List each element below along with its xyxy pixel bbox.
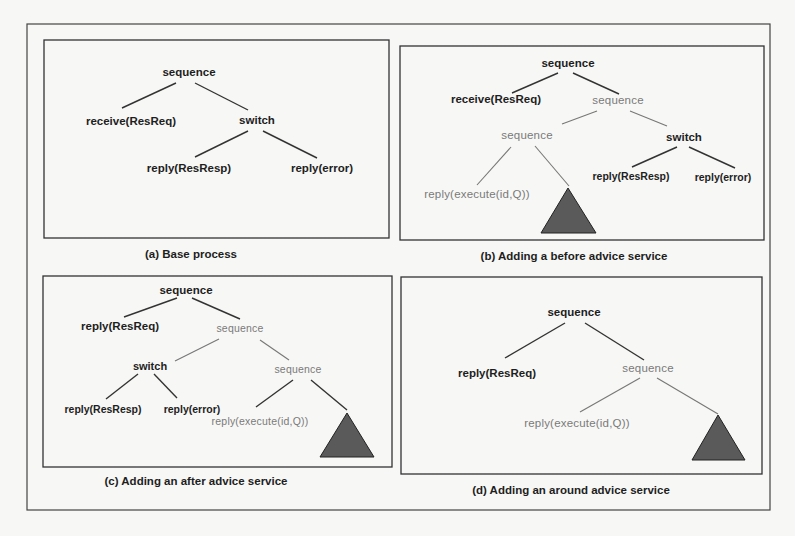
node-reply-execute: reply(execute(id,Q))	[524, 417, 630, 429]
node-switch: switch	[666, 131, 702, 143]
edge	[124, 298, 177, 317]
edge	[535, 146, 569, 186]
edge	[192, 298, 240, 319]
advice-weaving-diagram: sequence receive(ResReq) switch reply(Re…	[0, 0, 795, 536]
edge	[630, 111, 667, 126]
panel-c-caption: (c) Adding an after advice service	[104, 475, 287, 487]
edge	[562, 111, 597, 124]
node-reply-execute: reply(execute(id,Q))	[424, 188, 530, 200]
node-reply-resreq: reply(ResReq)	[81, 320, 159, 332]
node-reply-error: reply(error)	[291, 162, 353, 174]
panel-a-caption: (a) Base process	[145, 248, 237, 260]
panel-b-caption: (b) Adding a before advice service	[481, 250, 668, 262]
subtree-triangle-icon	[692, 415, 745, 460]
edge	[106, 374, 138, 399]
node-reply-resresp: reply(ResResp)	[64, 403, 141, 415]
node-sequence-advice-inner: sequence	[501, 129, 552, 141]
node-reply-error: reply(error)	[695, 171, 752, 183]
node-switch: switch	[133, 360, 168, 372]
panel-d-caption: (d) Adding an around advice service	[472, 484, 670, 496]
edge	[122, 83, 176, 108]
edge	[477, 147, 511, 185]
node-sequence-advice: sequence	[216, 322, 263, 334]
edge	[689, 147, 735, 168]
edge	[573, 73, 619, 94]
panel-c-after-advice: sequence reply(ResReq) sequence switch s…	[43, 276, 392, 487]
outer-frame	[27, 24, 770, 510]
edge	[632, 147, 677, 167]
node-sequence-root: sequence	[159, 284, 212, 296]
edge	[256, 380, 293, 407]
edge	[195, 131, 248, 157]
node-sequence-root: sequence	[547, 306, 600, 318]
panel-a-base-process: sequence receive(ResReq) switch reply(Re…	[44, 40, 389, 260]
node-reply-execute: reply(execute(id,Q))	[212, 415, 309, 427]
node-reply-resresp: reply(ResResp)	[592, 170, 669, 182]
edge	[260, 340, 289, 360]
node-sequence-advice: sequence	[622, 362, 673, 374]
node-receive-resreq: receive(ResReq)	[451, 93, 541, 105]
edge	[580, 378, 640, 412]
node-reply-resreq: reply(ResReq)	[458, 367, 536, 379]
node-sequence-root: sequence	[162, 66, 215, 78]
node-reply-resresp: reply(ResResp)	[147, 162, 232, 174]
node-switch: switch	[239, 114, 275, 126]
node-sequence-advice-inner: sequence	[274, 363, 321, 375]
subtree-triangle-icon	[320, 413, 374, 457]
edge	[263, 131, 317, 158]
edge	[505, 323, 565, 358]
subtree-triangle-icon	[541, 188, 596, 233]
panel-b-before-advice: sequence receive(ResReq) sequence sequen…	[400, 46, 764, 262]
node-sequence-advice: sequence	[592, 94, 643, 106]
edge	[585, 323, 644, 360]
edge	[657, 378, 718, 414]
node-sequence-root: sequence	[541, 57, 594, 69]
panel-a-border	[44, 40, 389, 238]
edge	[195, 83, 248, 110]
node-reply-error: reply(error)	[164, 403, 221, 415]
edge	[175, 339, 219, 361]
panel-d-around-advice: sequence reply(ResReq) sequence reply(ex…	[401, 277, 762, 496]
node-receive-resreq: receive(ResReq)	[86, 115, 176, 127]
edge	[311, 380, 347, 410]
edge	[154, 374, 177, 398]
edge	[512, 73, 558, 93]
